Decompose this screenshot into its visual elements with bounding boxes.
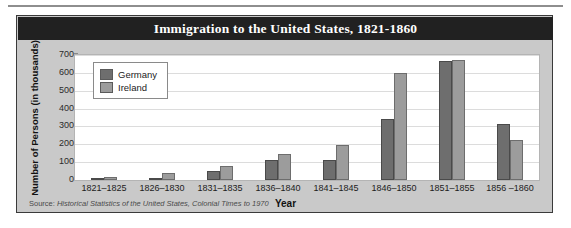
x-tick-label: 1826–1830	[139, 183, 184, 193]
bar-ireland-1826–1830	[162, 173, 175, 180]
bar-ireland-1846–1850	[394, 73, 407, 180]
legend-label-germany: Germany	[118, 69, 157, 80]
y-axis-title-label: Number of Persons (in thousands)	[29, 40, 40, 196]
figure-panel: Immigration to the United States, 1821-1…	[16, 15, 553, 213]
y-tick-label: 700	[48, 49, 74, 59]
y-tick-label: 600	[48, 67, 74, 77]
x-tick-label: 1831–1835	[197, 183, 242, 193]
source-text: Historical Statistics of the United Stat…	[57, 199, 269, 208]
y-tick-label: 0	[48, 174, 74, 184]
y-axis-ticks: 0100200300400500600700	[41, 54, 74, 181]
bar-ireland-1836–1840	[278, 154, 291, 180]
x-axis-labels: 1821–18251826–18301831–18351836–18401841…	[74, 183, 540, 197]
y-tick-label: 500	[48, 85, 74, 95]
page-top-rule	[8, 5, 563, 7]
bar-ireland-1851–1855	[452, 60, 465, 180]
gridline	[75, 144, 539, 145]
legend-label-ireland: Ireland	[118, 82, 147, 93]
gridline	[75, 109, 539, 110]
title-band: Immigration to the United States, 1821-1…	[18, 17, 553, 40]
legend-swatch-ireland	[100, 82, 113, 93]
gridline	[75, 55, 539, 56]
bar-germany-1846–1850	[381, 119, 394, 180]
bar-germany-1831–1835	[207, 171, 220, 180]
y-tick-label: 400	[48, 103, 74, 113]
bar-germany-1841–1845	[323, 160, 336, 180]
x-tick-label: 1836–1840	[255, 183, 300, 193]
gridline	[75, 162, 539, 163]
x-tick-label: 1856 –1860	[486, 183, 534, 193]
bar-ireland-1841–1845	[336, 145, 349, 180]
source-note: Source: Historical Statistics of the Uni…	[29, 199, 269, 208]
bar-ireland-1831–1835	[220, 166, 233, 180]
gridline	[75, 126, 539, 127]
legend-item-ireland: Ireland	[100, 81, 157, 93]
legend-item-germany: Germany	[100, 68, 157, 80]
bar-ireland-1821–1825	[104, 177, 117, 180]
y-axis-title: Number of Persons (in thousands)	[27, 54, 41, 181]
x-tick-label: 1846–1850	[371, 183, 416, 193]
bar-ireland-1856–1860	[510, 140, 523, 180]
x-tick-label: 1821–1825	[81, 183, 126, 193]
y-tick-label: 100	[48, 156, 74, 166]
bar-germany-1826–1830	[149, 178, 162, 180]
x-tick-label: 1851–1855	[429, 183, 474, 193]
legend-swatch-germany	[100, 69, 113, 80]
bar-germany-1821–1825	[91, 178, 104, 180]
legend: Germany Ireland	[93, 62, 168, 99]
bar-germany-1856–1860	[497, 124, 510, 180]
bar-germany-1836–1840	[265, 160, 278, 180]
x-tick-label: 1841–1845	[313, 183, 358, 193]
bar-germany-1851–1855	[439, 61, 452, 180]
y-tick-label: 300	[48, 120, 74, 130]
y-tick-label: 200	[48, 138, 74, 148]
chart-title: Immigration to the United States, 1821-1…	[18, 17, 553, 40]
source-prefix: Source:	[29, 199, 55, 208]
plot-area: Germany Ireland	[74, 54, 540, 181]
